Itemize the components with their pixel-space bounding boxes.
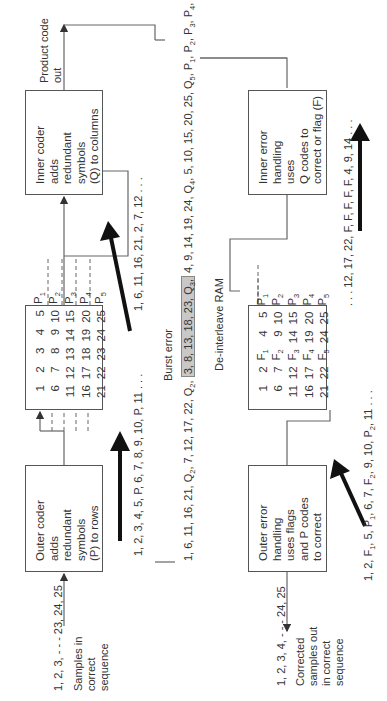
input-label: Samples in correct sequence bbox=[72, 637, 111, 691]
inner-error-output-sequence: . . . 12, 17, 22, F, F, F, F, F, 4, 9, 1… bbox=[342, 120, 354, 306]
interleave-ram-grid: 12345P1 678910P2 1112131415P3 1617181920… bbox=[25, 305, 103, 410]
sequence-after-burst: 4, 9, 14, 19, 24, Q4, 5, 10, 15, 20, 25,… bbox=[182, 0, 194, 273]
product-code-out-label: Product code out bbox=[38, 18, 64, 83]
sequence-before-burst: 1, 6, 11, 16, 21, Q2, 7, 12, 17, 22, Q2, bbox=[182, 380, 194, 561]
grid-row: 12345P1 bbox=[32, 289, 47, 401]
burst-error-label: Burst error bbox=[162, 329, 175, 381]
grid-row: 1617181920P4 bbox=[78, 289, 93, 401]
grid-row: 12F145P1 bbox=[255, 291, 270, 401]
output-sequence: 1, 2, 3, 4, - - - 24, 25 bbox=[275, 586, 288, 686]
grid-row: 1617F41920P4 bbox=[301, 291, 316, 401]
corrected-output-label: Corrected samples out in correct sequenc… bbox=[294, 627, 346, 686]
grid-row: 678910P2 bbox=[47, 289, 62, 401]
inner-error-handling-box: Inner error handling uses Q codes to cor… bbox=[248, 90, 327, 195]
interleave-output-sequence: 1, 6, 11, 16, 21, 2, 7, 12 . . . bbox=[132, 177, 144, 311]
deinterleave-ram-label: De-interleave RAM bbox=[213, 278, 226, 371]
input-sequence: 1, 2, 3, - - - 23, 24, 25 bbox=[52, 585, 65, 691]
outer-coder-output-sequence: 1, 2, 3, 4, 5, P, 6, 7, 8, 9, 10, P, 11 … bbox=[132, 374, 144, 556]
grid-row: 1112F31415P3 bbox=[286, 291, 301, 401]
grid-row: 67F2910P2 bbox=[270, 291, 285, 401]
product-code-diagram: 1, 2, 3, - - - 23, 24, 25 Samples in cor… bbox=[0, 0, 387, 701]
channel-sequence: 1, 6, 11, 16, 21, Q2, 7, 12, 17, 22, Q2,… bbox=[182, 0, 197, 561]
outer-error-handling-box: Outer error handling uses flags and P co… bbox=[248, 465, 327, 572]
burst-error-highlight: 3, 8, 13, 18, 23, Q3, bbox=[181, 276, 195, 377]
inner-coder-box: Inner coder adds redundant symbols (Q) t… bbox=[25, 90, 103, 195]
grid-row: 2122232425P5 bbox=[93, 289, 108, 401]
outer-coder-box: Outer coder adds redundant symbols (P) t… bbox=[25, 465, 103, 572]
deinterleave-output-sequence: 1, 2, F1, 5, P1, 6, 7, F2, 9, 10, P2, 11… bbox=[362, 390, 377, 581]
grid-row: 1112131415P3 bbox=[63, 289, 78, 401]
grid-row: 2122F52425P5 bbox=[316, 291, 331, 401]
deinterleave-ram-grid: 12F145P1 67F2910P2 1112F31415P3 1617F419… bbox=[248, 305, 327, 410]
